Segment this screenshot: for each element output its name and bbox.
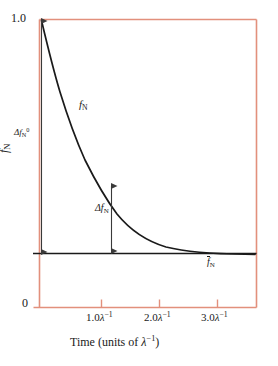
x-axis-ticks <box>102 300 218 308</box>
y-axis-tick-label-top: 1.0 <box>11 12 26 24</box>
x-axis-tick-label-1: 1.0λ−1 <box>86 312 113 323</box>
delta-fn0-label: ΔfN0 <box>14 128 30 137</box>
curve-label-fn: fN <box>79 99 88 110</box>
exponential-decay-figure: 1.0 0 fN ΔfN0 fN ΔfN fN 1.0λ−1 2.0λ−1 3.… <box>0 0 278 366</box>
x-axis-tick-label-3: 3.0λ−1 <box>201 312 228 323</box>
asymptote-label-fbar-n: fN <box>207 256 215 267</box>
delta-fn-label: ΔfN <box>95 203 109 213</box>
decay-curve <box>42 21 256 255</box>
x-axis-tick-label-2: 2.0λ−1 <box>144 312 171 323</box>
y-axis-title: fN <box>0 144 10 153</box>
x-axis-title: Time (units of λ−1) <box>70 336 159 348</box>
y-axis-tick-label-zero: 0 <box>22 297 28 309</box>
plot-frame <box>34 20 257 308</box>
plot-canvas <box>0 0 278 366</box>
